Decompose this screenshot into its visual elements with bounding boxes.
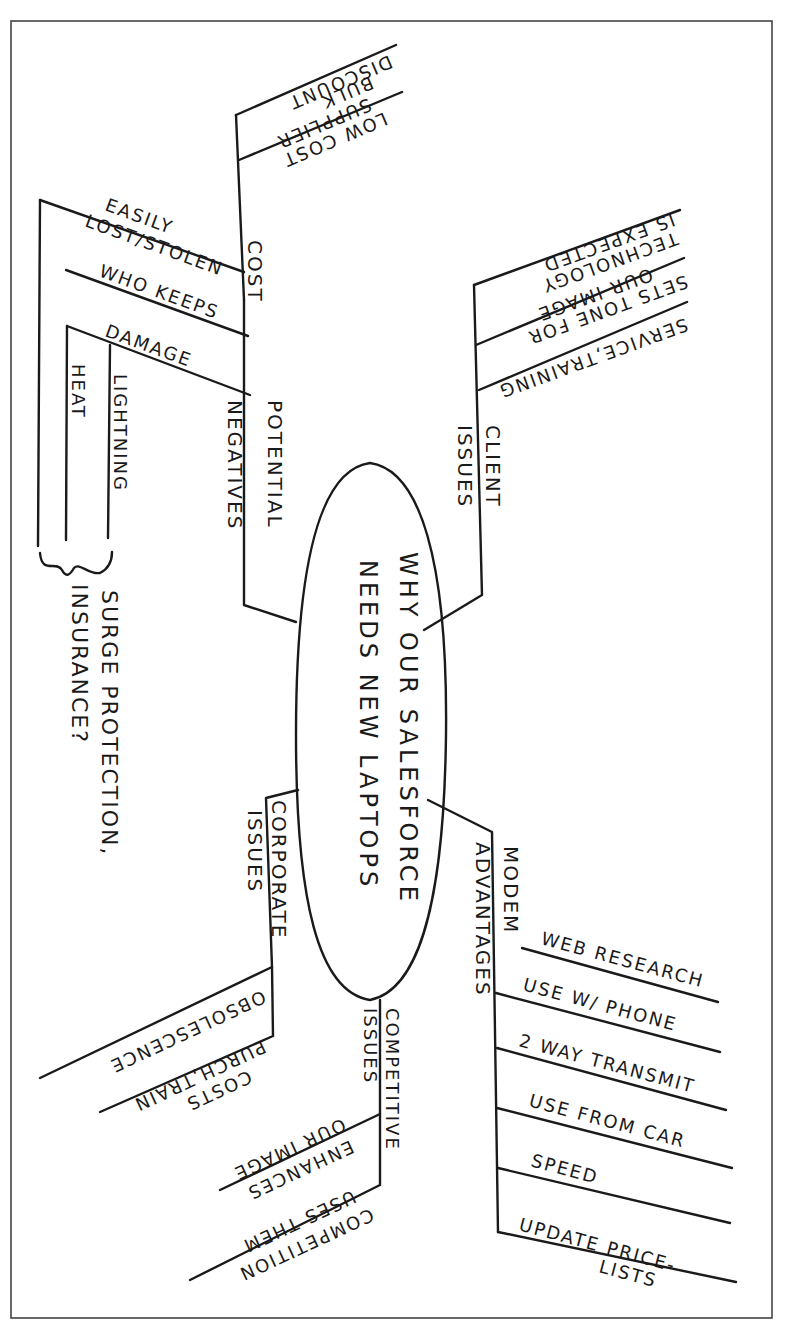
potential-label-line1: POTENTIAL xyxy=(263,400,287,529)
modem-item-speed: SPEED xyxy=(529,1150,601,1188)
client-label-line2: ISSUES xyxy=(453,425,477,508)
line-heat xyxy=(66,326,67,540)
competitive-label-line2: ISSUES xyxy=(360,1008,381,1084)
corporate-label-line2: ISSUES xyxy=(243,810,267,893)
competitive-label-line1: COMPETITIVE xyxy=(382,1008,403,1151)
branch-corporate-issues: CORPORATE ISSUES OBSOLESCENCE PURCH,TRAI… xyxy=(40,790,298,1116)
branch-cost: COST DISCOUNT BULK SUPPLIER LOW COST xyxy=(236,45,402,303)
potential-label-line2: NEGATIVES xyxy=(223,400,247,530)
line-damage xyxy=(67,326,250,395)
mind-map-canvas: WHY OUR SALESFORCE NEEDS NEW LAPTOPS COS… xyxy=(0,0,787,1327)
line-lightning xyxy=(108,345,110,538)
branch-client-issues: CLIENT ISSUES IS EXPECTED TECHNOLOGY OUR… xyxy=(424,209,691,630)
modem-line-speed xyxy=(498,1168,730,1223)
damage-sub-lightning: LIGHTNING xyxy=(110,374,131,492)
center-title-line2: NEEDS NEW LAPTOPS xyxy=(354,560,382,890)
modem-label-line2: ADVANTAGES xyxy=(471,842,495,997)
modem-label-line1: MODEM xyxy=(499,846,523,934)
cost-label: COST xyxy=(243,240,267,303)
damage-sub-heat: HEAT xyxy=(68,364,89,419)
potential-note-line1: SURGE PROTECTION, xyxy=(97,590,122,857)
modem-item-update-price: UPDATE PRICE- xyxy=(517,1214,679,1276)
line-outer-left xyxy=(38,200,40,546)
modem-item-use-with-phone: USE W/ PHONE xyxy=(521,974,680,1035)
brace-icon xyxy=(40,552,112,575)
potential-note-line2: INSURANCE? xyxy=(67,584,92,744)
corporate-label-line1: CORPORATE xyxy=(267,800,291,939)
branch-competitive-issues: COMPETITIVE ISSUES OUR IMAGE ENHANCES US… xyxy=(190,1000,403,1285)
client-label-line1: CLIENT xyxy=(481,425,505,508)
center-node: WHY OUR SALESFORCE NEEDS NEW LAPTOPS xyxy=(296,463,446,1000)
center-title-line1: WHY OUR SALESFORCE xyxy=(394,552,422,905)
mind-map-drawing: WHY OUR SALESFORCE NEEDS NEW LAPTOPS COS… xyxy=(0,0,787,1327)
branch-modem-advantages: MODEM ADVANTAGES WEB RESEARCH USE W/ PHO… xyxy=(428,800,736,1291)
